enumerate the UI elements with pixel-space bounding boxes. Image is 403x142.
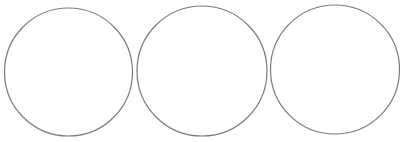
diagram-canvas xyxy=(0,0,403,142)
circle-2 xyxy=(137,6,267,136)
circle-1 xyxy=(5,8,133,136)
circle-3 xyxy=(271,5,400,134)
